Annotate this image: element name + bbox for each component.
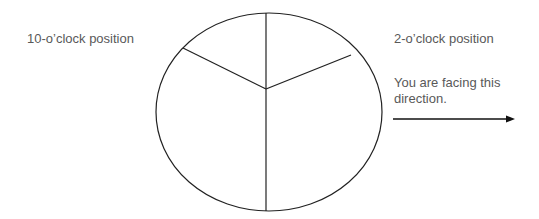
direction-arrow-icon — [393, 116, 515, 123]
two-oclock-divider-line — [266, 55, 351, 89]
two-oclock-label: 2-o’clock position — [394, 31, 494, 47]
facing-direction-label-line1: You are facing this — [394, 75, 500, 91]
diagram-canvas: 10-o’clock position 2-o’clock position Y… — [0, 0, 539, 219]
facing-direction-label-line2: direction. — [394, 91, 447, 107]
clock-circle — [156, 13, 382, 211]
ten-oclock-divider-line — [183, 48, 266, 89]
ten-oclock-label: 10-o’clock position — [27, 31, 134, 47]
